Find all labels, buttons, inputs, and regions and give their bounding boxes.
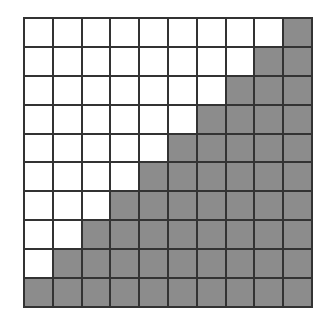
grid-cell-shaded (284, 163, 311, 190)
grid-cell-empty (25, 106, 52, 133)
grid-cell-empty (111, 77, 138, 104)
grid-cell-shaded (284, 221, 311, 248)
grid-cell-empty (140, 106, 167, 133)
grid-cell-empty (25, 163, 52, 190)
grid-cell-empty (111, 106, 138, 133)
grid-cell-shaded (54, 279, 81, 306)
grid-cell-empty (83, 19, 110, 46)
grid-cell-shaded (284, 106, 311, 133)
grid-cell-shaded (284, 135, 311, 162)
grid-cell-shaded (198, 250, 225, 277)
grid-cell-shaded (227, 106, 254, 133)
grid-cell-shaded (83, 279, 110, 306)
grid-cell-shaded (227, 192, 254, 219)
grid-cell-empty (111, 19, 138, 46)
grid-cell-shaded (111, 250, 138, 277)
grid-cell-shaded (227, 279, 254, 306)
grid-cell-empty (54, 106, 81, 133)
grid-cell-shaded (169, 279, 196, 306)
grid-cell-shaded (227, 163, 254, 190)
grid-cell-empty (140, 135, 167, 162)
grid-cell-shaded (255, 48, 282, 75)
grid-cell-shaded (255, 163, 282, 190)
grid-cell-shaded (140, 163, 167, 190)
grid-cell-shaded (284, 77, 311, 104)
grid-cell-shaded (169, 192, 196, 219)
grid-cell-shaded (169, 163, 196, 190)
grid-cell-empty (111, 48, 138, 75)
grid-cell-empty (227, 19, 254, 46)
grid-cell-empty (255, 19, 282, 46)
grid-cell-empty (140, 19, 167, 46)
grid-cell-empty (54, 77, 81, 104)
grid-cell-shaded (255, 106, 282, 133)
grid-cell-shaded (111, 192, 138, 219)
grid-cell-empty (54, 192, 81, 219)
grid-cell-shaded (255, 135, 282, 162)
grid-cell-empty (140, 77, 167, 104)
grid-cell-shaded (140, 221, 167, 248)
grid-cell-shaded (198, 221, 225, 248)
grid-cell-empty (198, 19, 225, 46)
grid-cell-shaded (198, 106, 225, 133)
grid-cell-empty (169, 106, 196, 133)
grid-cell-empty (83, 48, 110, 75)
grid-cell-shaded (169, 250, 196, 277)
grid-cell-empty (54, 48, 81, 75)
grid-cell-empty (25, 192, 52, 219)
grid-cell-empty (25, 77, 52, 104)
grid-cell-empty (111, 135, 138, 162)
staircase-grid (23, 17, 313, 308)
grid-cell-shaded (284, 250, 311, 277)
grid-cell-shaded (54, 250, 81, 277)
grid-cell-shaded (284, 19, 311, 46)
grid-cell-shaded (255, 279, 282, 306)
grid-cell-shaded (284, 279, 311, 306)
grid-cell-shaded (83, 221, 110, 248)
grid-cell-empty (54, 221, 81, 248)
grid-cell-empty (169, 19, 196, 46)
grid-cell-empty (111, 163, 138, 190)
grid-cell-shaded (198, 135, 225, 162)
grid-cell-shaded (111, 221, 138, 248)
grid-cell-empty (54, 135, 81, 162)
grid-cell-shaded (140, 192, 167, 219)
grid-cell-shaded (198, 279, 225, 306)
grid-cell-shaded (25, 279, 52, 306)
grid-cell-empty (83, 135, 110, 162)
grid-cell-empty (54, 163, 81, 190)
grid-cell-shaded (227, 77, 254, 104)
grid-cell-empty (169, 48, 196, 75)
grid-cell-empty (54, 19, 81, 46)
grid-cell-shaded (284, 48, 311, 75)
grid-cell-empty (198, 77, 225, 104)
grid-cell-empty (227, 48, 254, 75)
grid-cell-empty (198, 48, 225, 75)
grid-cell-shaded (169, 221, 196, 248)
grid-cell-empty (140, 48, 167, 75)
grid-cell-shaded (227, 250, 254, 277)
grid-cell-empty (25, 19, 52, 46)
grid-cell-empty (25, 250, 52, 277)
grid-cell-empty (25, 48, 52, 75)
grid-cell-empty (83, 106, 110, 133)
grid-cell-shaded (227, 135, 254, 162)
grid-cell-empty (83, 163, 110, 190)
grid-cell-shaded (83, 250, 110, 277)
grid-cell-empty (83, 77, 110, 104)
grid-cell-empty (169, 77, 196, 104)
grid-cell-shaded (255, 221, 282, 248)
grid-cell-shaded (111, 279, 138, 306)
grid-cell-shaded (255, 250, 282, 277)
grid-cell-empty (25, 135, 52, 162)
grid-cell-shaded (255, 77, 282, 104)
grid-cell-shaded (198, 163, 225, 190)
grid-cell-shaded (284, 192, 311, 219)
grid-cell-shaded (198, 192, 225, 219)
grid-cell-shaded (227, 221, 254, 248)
grid-cell-empty (25, 221, 52, 248)
grid-cell-shaded (140, 279, 167, 306)
grid-cell-shaded (140, 250, 167, 277)
grid-cell-shaded (255, 192, 282, 219)
grid-cell-empty (83, 192, 110, 219)
